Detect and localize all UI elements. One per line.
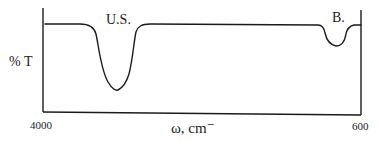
spectrum-curve	[45, 24, 361, 90]
y-axis-label: % T	[9, 55, 32, 69]
x-axis-label: ω, cm⁻	[171, 121, 215, 136]
x-tick-4000: 4000	[30, 120, 52, 131]
x-axis	[43, 112, 361, 115]
peak-label-b: B.	[332, 11, 345, 25]
x-tick-600: 600	[352, 121, 369, 132]
peak-label-us: U.S.	[106, 13, 131, 27]
